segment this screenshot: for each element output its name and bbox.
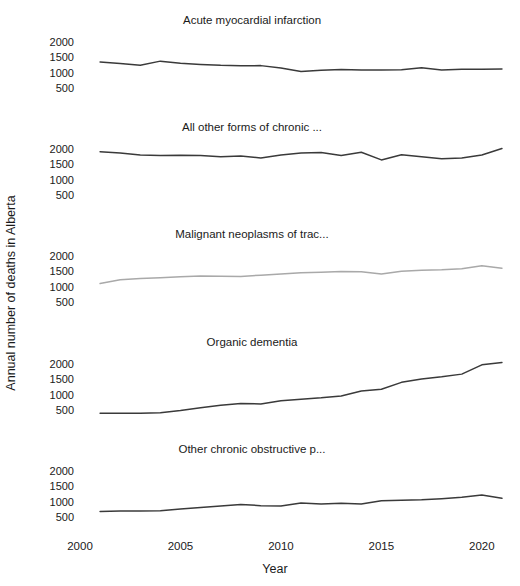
series-line-svg	[80, 463, 514, 525]
x-axis-tick-label: 2010	[268, 540, 294, 552]
series-line-svg	[80, 141, 514, 203]
y-axis-tick-label: 500	[36, 512, 74, 523]
series-line-svg	[80, 356, 514, 418]
x-axis-tick-label: 2015	[369, 540, 395, 552]
y-axis-tick-label: 1500	[36, 481, 74, 492]
plot-area	[80, 463, 514, 525]
series-line	[100, 495, 502, 511]
series-line-svg	[80, 34, 514, 96]
y-axis-tick-label: 1500	[36, 266, 74, 277]
plot-area	[80, 141, 514, 203]
panel-title: Malignant neoplasms of trac...	[36, 228, 468, 240]
y-axis-tick-label: 1000	[36, 389, 74, 400]
x-axis-tick-label: 2005	[168, 540, 194, 552]
panel-title: Other chronic obstructive p...	[36, 443, 468, 455]
y-axis-tick-label: 1000	[36, 496, 74, 507]
y-axis-tick-label: 2000	[36, 465, 74, 476]
y-axis-title-text: Annual number of deaths in Alberta	[4, 195, 18, 390]
y-axis-tick-label: 500	[36, 297, 74, 308]
x-axis-tick-label: 2000	[67, 540, 93, 552]
y-axis-tick-label: 1500	[36, 52, 74, 63]
y-axis-tick-label: 1000	[36, 174, 74, 185]
series-line	[100, 148, 502, 159]
panel-title: Organic dementia	[36, 336, 468, 348]
plot-area	[80, 34, 514, 96]
series-line	[100, 61, 502, 71]
plot-box: 200015001000500	[36, 141, 514, 203]
y-axis-tick-label: 1500	[36, 159, 74, 170]
series-line	[100, 363, 502, 414]
faceted-line-chart-figure: Annual number of deaths in Alberta Acute…	[0, 0, 520, 586]
y-axis-tick-label: 1000	[36, 281, 74, 292]
series-line	[100, 266, 502, 284]
y-axis-tick-label: 500	[36, 405, 74, 416]
series-line-svg	[80, 248, 514, 310]
x-axis-title: Year	[36, 562, 514, 576]
y-axis-title: Annual number of deaths in Alberta	[0, 0, 22, 586]
y-axis-tick-label: 2000	[36, 143, 74, 154]
plot-area	[80, 248, 514, 310]
x-axis-ticks: 20002005201020152020	[36, 540, 514, 560]
x-axis-title-text: Year	[262, 562, 287, 576]
y-axis-tick-label: 2000	[36, 250, 74, 261]
y-axis-tick-label: 2000	[36, 358, 74, 369]
y-axis-tick-label: 500	[36, 83, 74, 94]
plot-area	[80, 356, 514, 418]
y-axis-tick-label: 1000	[36, 67, 74, 78]
panel-title: All other forms of chronic ...	[36, 121, 468, 133]
panel-title: Acute myocardial infarction	[36, 14, 468, 26]
plot-box: 200015001000500	[36, 463, 514, 525]
y-axis-tick-label: 1500	[36, 374, 74, 385]
y-axis-tick-label: 2000	[36, 36, 74, 47]
plot-box: 200015001000500	[36, 34, 514, 96]
plot-box: 200015001000500	[36, 356, 514, 418]
x-axis-tick-label: 2020	[469, 540, 495, 552]
plot-box: 200015001000500	[36, 248, 514, 310]
y-axis-tick-label: 500	[36, 190, 74, 201]
